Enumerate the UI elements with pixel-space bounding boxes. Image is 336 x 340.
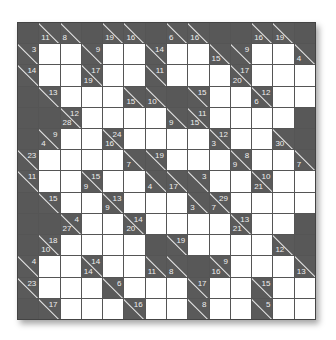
entry-cell[interactable] bbox=[103, 44, 123, 64]
entry-cell[interactable] bbox=[167, 65, 187, 85]
entry-cell[interactable] bbox=[231, 299, 251, 319]
entry-cell[interactable] bbox=[124, 108, 144, 128]
entry-cell[interactable] bbox=[39, 171, 59, 191]
entry-cell[interactable] bbox=[124, 278, 144, 298]
entry-cell[interactable] bbox=[61, 235, 81, 255]
entry-cell[interactable] bbox=[231, 235, 251, 255]
entry-cell[interactable] bbox=[295, 65, 315, 85]
entry-cell[interactable] bbox=[231, 278, 251, 298]
entry-cell[interactable] bbox=[61, 150, 81, 170]
entry-cell[interactable] bbox=[188, 65, 208, 85]
entry-cell[interactable] bbox=[61, 129, 81, 149]
entry-cell[interactable] bbox=[188, 150, 208, 170]
entry-cell[interactable] bbox=[188, 129, 208, 149]
entry-cell[interactable] bbox=[82, 214, 102, 234]
entry-cell[interactable] bbox=[82, 193, 102, 213]
entry-cell[interactable] bbox=[188, 214, 208, 234]
entry-cell[interactable] bbox=[82, 278, 102, 298]
entry-cell[interactable] bbox=[252, 65, 272, 85]
entry-cell[interactable] bbox=[61, 171, 81, 191]
entry-cell[interactable] bbox=[103, 235, 123, 255]
entry-cell[interactable] bbox=[82, 235, 102, 255]
entry-cell[interactable] bbox=[61, 44, 81, 64]
entry-cell[interactable] bbox=[210, 235, 230, 255]
entry-cell[interactable] bbox=[210, 214, 230, 234]
entry-cell[interactable] bbox=[210, 278, 230, 298]
entry-cell[interactable] bbox=[146, 214, 166, 234]
entry-cell[interactable] bbox=[82, 299, 102, 319]
entry-cell[interactable] bbox=[82, 129, 102, 149]
entry-cell[interactable] bbox=[273, 65, 293, 85]
entry-cell[interactable] bbox=[273, 44, 293, 64]
entry-cell[interactable] bbox=[61, 65, 81, 85]
entry-cell[interactable] bbox=[39, 65, 59, 85]
entry-cell[interactable] bbox=[61, 87, 81, 107]
entry-cell[interactable] bbox=[124, 44, 144, 64]
entry-cell[interactable] bbox=[103, 171, 123, 191]
entry-cell[interactable] bbox=[103, 65, 123, 85]
entry-cell[interactable] bbox=[252, 108, 272, 128]
entry-cell[interactable] bbox=[103, 108, 123, 128]
entry-cell[interactable] bbox=[167, 193, 187, 213]
entry-cell[interactable] bbox=[39, 256, 59, 276]
entry-cell[interactable] bbox=[124, 256, 144, 276]
entry-cell[interactable] bbox=[124, 171, 144, 191]
entry-cell[interactable] bbox=[146, 129, 166, 149]
entry-cell[interactable] bbox=[295, 299, 315, 319]
entry-cell[interactable] bbox=[103, 256, 123, 276]
entry-cell[interactable] bbox=[273, 108, 293, 128]
entry-cell[interactable] bbox=[167, 214, 187, 234]
entry-cell[interactable] bbox=[252, 193, 272, 213]
entry-cell[interactable] bbox=[124, 129, 144, 149]
entry-cell[interactable] bbox=[210, 171, 230, 191]
entry-cell[interactable] bbox=[61, 193, 81, 213]
entry-cell[interactable] bbox=[295, 193, 315, 213]
entry-cell[interactable] bbox=[231, 171, 251, 191]
entry-cell[interactable] bbox=[273, 214, 293, 234]
entry-cell[interactable] bbox=[231, 87, 251, 107]
entry-cell[interactable] bbox=[210, 87, 230, 107]
entry-cell[interactable] bbox=[167, 129, 187, 149]
entry-cell[interactable] bbox=[82, 150, 102, 170]
entry-cell[interactable] bbox=[210, 108, 230, 128]
entry-cell[interactable] bbox=[231, 256, 251, 276]
entry-cell[interactable] bbox=[82, 87, 102, 107]
entry-cell[interactable] bbox=[146, 278, 166, 298]
entry-cell[interactable] bbox=[252, 214, 272, 234]
entry-cell[interactable] bbox=[167, 278, 187, 298]
entry-cell[interactable] bbox=[210, 65, 230, 85]
entry-cell[interactable] bbox=[188, 44, 208, 64]
entry-cell[interactable] bbox=[295, 87, 315, 107]
entry-cell[interactable] bbox=[252, 44, 272, 64]
entry-cell[interactable] bbox=[103, 299, 123, 319]
entry-cell[interactable] bbox=[273, 299, 293, 319]
entry-cell[interactable] bbox=[39, 150, 59, 170]
entry-cell[interactable] bbox=[231, 193, 251, 213]
entry-cell[interactable] bbox=[146, 193, 166, 213]
entry-cell[interactable] bbox=[146, 299, 166, 319]
entry-cell[interactable] bbox=[61, 278, 81, 298]
entry-cell[interactable] bbox=[167, 44, 187, 64]
entry-cell[interactable] bbox=[82, 108, 102, 128]
entry-cell[interactable] bbox=[231, 108, 251, 128]
entry-cell[interactable] bbox=[167, 299, 187, 319]
entry-cell[interactable] bbox=[210, 150, 230, 170]
entry-cell[interactable] bbox=[273, 256, 293, 276]
entry-cell[interactable] bbox=[39, 44, 59, 64]
entry-cell[interactable] bbox=[210, 299, 230, 319]
entry-cell[interactable] bbox=[252, 235, 272, 255]
entry-cell[interactable] bbox=[273, 171, 293, 191]
entry-cell[interactable] bbox=[273, 150, 293, 170]
entry-cell[interactable] bbox=[295, 171, 315, 191]
entry-cell[interactable] bbox=[188, 235, 208, 255]
entry-cell[interactable] bbox=[103, 214, 123, 234]
entry-cell[interactable] bbox=[273, 193, 293, 213]
entry-cell[interactable] bbox=[252, 150, 272, 170]
entry-cell[interactable] bbox=[103, 87, 123, 107]
entry-cell[interactable] bbox=[146, 108, 166, 128]
entry-cell[interactable] bbox=[273, 87, 293, 107]
entry-cell[interactable] bbox=[39, 278, 59, 298]
entry-cell[interactable] bbox=[124, 193, 144, 213]
entry-cell[interactable] bbox=[124, 65, 144, 85]
entry-cell[interactable] bbox=[61, 256, 81, 276]
